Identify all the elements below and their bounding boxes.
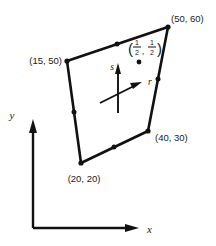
top-edge-midnode [115,42,120,47]
corner-label-bottom-left: (20, 20) [68,173,101,184]
half-half-denominator-r: 2 [135,49,139,56]
x-axis-arrowhead [125,224,139,232]
half-half-numerator-s: 1 [150,39,154,46]
s-axis-label: s [110,62,114,72]
corner-node-top-right [165,24,170,29]
x-axis-label: x [146,223,152,235]
half-half-numerator-r: 1 [135,39,139,46]
half-half-open-paren: ( [128,40,133,57]
r-axis-label: r [148,77,152,87]
right-edge-midnode [156,77,161,82]
half-half-comma: , [142,46,145,56]
corner-label-bottom-right: (40, 30) [155,132,188,143]
figure-root: y x s r [0,0,216,246]
corner-label-top-right: (50, 60) [171,13,204,24]
half-half-close-paren: ) [157,40,162,57]
corner-labels-group: (15, 50) (50, 60) (40, 30) (20, 20) [29,13,204,184]
global-axes-group: y x [9,109,152,235]
half-half-point-dot [137,60,142,65]
corner-label-top-left: (15, 50) [29,55,62,66]
half-half-denominator-s: 2 [150,49,154,56]
natural-axes-group: s r [100,62,152,113]
corner-node-bottom-right [145,128,150,133]
corner-node-bottom-left [78,160,83,165]
left-edge-midnode [72,110,77,115]
y-axis-label: y [9,109,15,121]
corner-node-top-left [64,58,69,63]
figure-canvas: y x s r [0,0,216,246]
s-axis-arrowhead [115,63,121,74]
y-axis-arrowhead [29,119,37,133]
r-axis-line [100,86,134,103]
bottom-edge-midnode [112,145,117,150]
interior-point-group: ( 1 2 , 1 2 ) [128,39,162,64]
